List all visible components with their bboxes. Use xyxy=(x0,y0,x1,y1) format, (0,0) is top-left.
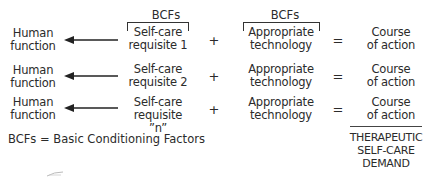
plus-sign: + xyxy=(207,103,221,116)
result-line-3: DEMAND xyxy=(345,157,427,170)
appropriate-technology: Appropriate technology xyxy=(240,63,322,89)
self-care-requisite: Self-care requisite 2 xyxy=(124,63,192,89)
bcf-label-technology: BCFs xyxy=(265,9,305,21)
human-function-line-2: function xyxy=(6,40,60,53)
human-function: Human function xyxy=(6,64,60,90)
appropriate-technology: Appropriate technology xyxy=(240,26,322,52)
course-of-action: Course of action xyxy=(360,63,422,89)
requisite-line-2: requisite 1 xyxy=(124,39,192,52)
equals-sign: = xyxy=(331,103,345,116)
human-function-line-2: function xyxy=(6,77,60,90)
equals-sign: = xyxy=(331,34,345,47)
technology-line-2: technology xyxy=(240,39,322,52)
result-line-1: THERAPEUTIC xyxy=(345,131,427,144)
appropriate-technology: Appropriate technology xyxy=(240,96,322,122)
summation-line xyxy=(350,126,422,127)
human-function: Human function xyxy=(6,96,60,122)
result-line-2: SELF-CARE xyxy=(345,144,427,157)
self-care-requisite: Self-care requisite 1 xyxy=(124,26,192,52)
technology-line-2: technology xyxy=(240,76,322,89)
bcf-legend: BCFs = Basic Conditioning Factors xyxy=(8,133,205,146)
scan-artifact-mark xyxy=(46,171,64,177)
requisite-line-2: requisite 2 xyxy=(124,76,192,89)
course-of-action: Course of action xyxy=(360,96,422,122)
course-of-action: Course of action xyxy=(360,26,422,52)
left-arrow-icon xyxy=(64,103,118,113)
course-line-2: of action xyxy=(360,109,422,122)
plus-sign: + xyxy=(207,34,221,47)
self-care-demand-diagram: { "header": { "bcf_label_requisite": "BC… xyxy=(0,0,428,181)
human-function-line-2: function xyxy=(6,109,60,122)
self-care-requisite: Self-care requisite ”n” xyxy=(124,96,192,135)
bcf-label-requisite: BCFs xyxy=(146,9,186,21)
therapeutic-self-care-demand: THERAPEUTIC SELF-CARE DEMAND xyxy=(345,131,427,170)
left-arrow-icon xyxy=(64,71,118,81)
left-arrow-icon xyxy=(64,35,118,45)
equals-sign: = xyxy=(331,70,345,83)
course-line-2: of action xyxy=(360,39,422,52)
technology-line-2: technology xyxy=(240,109,322,122)
human-function: Human function xyxy=(6,27,60,53)
plus-sign: + xyxy=(207,70,221,83)
course-line-2: of action xyxy=(360,76,422,89)
